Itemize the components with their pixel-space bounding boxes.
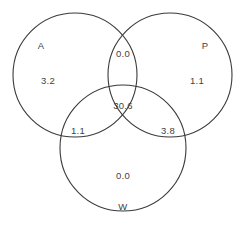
region-value-a-w: 1.1: [71, 126, 85, 136]
region-value-a-p: 0.0: [116, 49, 130, 59]
region-value-p-w: 3.8: [161, 126, 175, 136]
venn-diagram-figure: A P W 3.2 1.1 0.0 0.0 1.1 3.8 30.6: [0, 0, 250, 229]
set-label-w: W: [118, 202, 127, 212]
venn-circles-group: [0, 0, 250, 229]
region-value-p-only: 1.1: [190, 76, 204, 86]
venn-circle-a: [13, 13, 137, 137]
region-value-a-p-w: 30.6: [113, 101, 133, 111]
set-label-a: A: [38, 41, 45, 51]
venn-circle-p: [108, 13, 232, 137]
region-value-a-only: 3.2: [41, 76, 55, 86]
region-value-w-only: 0.0: [116, 171, 130, 181]
set-label-p: P: [202, 41, 209, 51]
